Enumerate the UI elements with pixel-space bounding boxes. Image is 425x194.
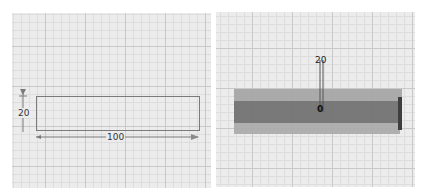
extrude-handle-label[interactable]: 0 — [316, 104, 324, 114]
sketch-rectangle[interactable] — [36, 96, 200, 131]
extrude-dimension-label[interactable]: 20 — [314, 55, 327, 65]
solid-bottom-face — [234, 123, 400, 134]
sketch-viewport[interactable]: 20 100 — [12, 13, 211, 188]
height-dimension-label[interactable]: 20 — [17, 108, 30, 118]
model-viewport[interactable]: 20 0 — [216, 12, 415, 187]
solid-end-face — [398, 97, 402, 130]
width-dimension-label[interactable]: 100 — [106, 132, 125, 142]
